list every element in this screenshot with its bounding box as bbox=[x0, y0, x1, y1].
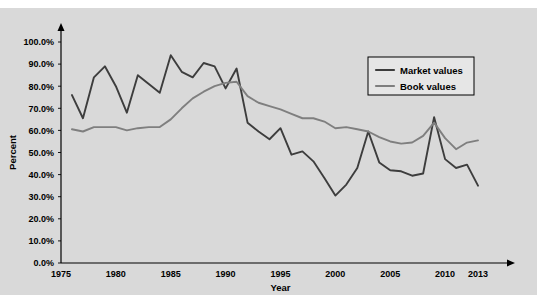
y-axis-tick-label: 30.0% bbox=[28, 192, 54, 202]
y-axis-tick-label: 60.0% bbox=[28, 126, 54, 136]
y-axis-tick-label: 100.0% bbox=[23, 37, 54, 47]
x-axis-tick-label: 1975 bbox=[51, 269, 71, 279]
y-axis-tick-label: 90.0% bbox=[28, 59, 54, 69]
x-axis-tick-label: 1985 bbox=[161, 269, 181, 279]
legend-label-2: Book values bbox=[400, 81, 456, 92]
x-axis-arrowhead bbox=[507, 260, 515, 267]
y-axis-tick-label: 20.0% bbox=[28, 214, 54, 224]
line-chart: 100.0%90.0%80.0%70.0%60.0%50.0%40.0%30.0… bbox=[0, 0, 537, 303]
y-axis-arrowhead bbox=[58, 23, 65, 31]
x-axis-tick-label: 1980 bbox=[106, 269, 126, 279]
y-axis-tick-label: 70.0% bbox=[28, 104, 54, 114]
y-axis-title: Percent bbox=[7, 134, 18, 170]
x-axis-tick-label: 1995 bbox=[270, 269, 290, 279]
legend-label-1: Market values bbox=[400, 65, 463, 76]
y-axis-tick-label: 10.0% bbox=[28, 236, 54, 246]
x-axis-tick-label: 2010 bbox=[435, 269, 455, 279]
x-axis-tick-label: 1990 bbox=[216, 269, 236, 279]
x-axis-tick-label: 2013 bbox=[468, 269, 488, 279]
y-axis-tick-label: 50.0% bbox=[28, 148, 54, 158]
y-axis-tick-label: 40.0% bbox=[28, 170, 54, 180]
x-axis-tick-label: 2000 bbox=[325, 269, 345, 279]
y-axis-tick-label: 0.0% bbox=[33, 258, 54, 268]
x-axis-tick-label: 2005 bbox=[380, 269, 400, 279]
chart-figure: 100.0%90.0%80.0%70.0%60.0%50.0%40.0%30.0… bbox=[0, 0, 537, 303]
x-axis-title: Year bbox=[270, 282, 290, 293]
y-axis-tick-label: 80.0% bbox=[28, 82, 54, 92]
